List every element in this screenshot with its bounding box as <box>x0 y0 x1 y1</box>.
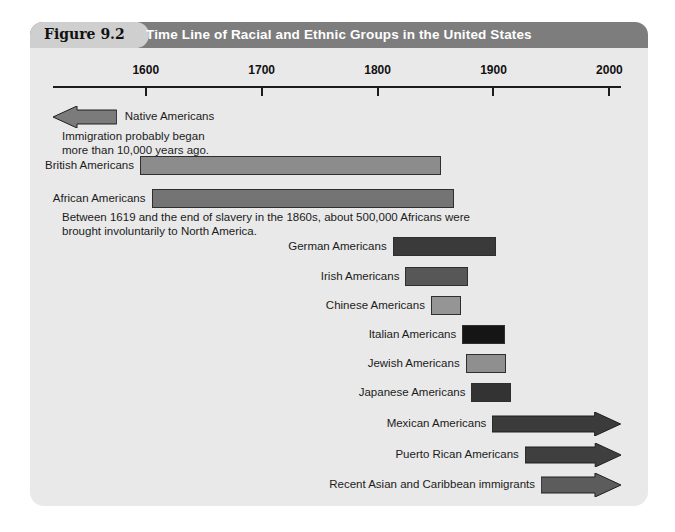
axis-label-1800: 1800 <box>364 63 391 77</box>
timeline-bar <box>466 354 507 373</box>
axis-tick-1900 <box>492 86 494 96</box>
timeline-bar <box>431 296 461 315</box>
timeline-arrow-right <box>541 473 621 497</box>
axis-tick-1800 <box>377 86 379 96</box>
timeline-row-note: Immigration probably began more than 10,… <box>62 130 209 157</box>
timeline-arrow-right <box>492 412 621 436</box>
timeline-row-label: Japanese Americans <box>359 386 466 398</box>
axis-label-1700: 1700 <box>248 63 275 77</box>
timeline-row-label: Chinese Americans <box>326 299 425 311</box>
timeline-row-label: British Americans <box>45 159 134 171</box>
axis-label-1600: 1600 <box>132 63 159 77</box>
timeline-row-label: Jewish Americans <box>368 357 460 369</box>
timeline-row-label: Italian Americans <box>369 328 457 340</box>
timeline-bar <box>471 383 510 402</box>
axis-label-2000: 2000 <box>596 63 623 77</box>
timeline-bar <box>462 325 505 344</box>
figure-number-label: Figure 9.2 <box>44 26 125 42</box>
axis-tick-1700 <box>261 86 263 96</box>
axis-tick-1600 <box>145 86 147 96</box>
figure-title: Time Line of Racial and Ethnic Groups in… <box>146 27 532 42</box>
timeline-bar <box>393 237 496 256</box>
figure-header: Figure 9.2 Time Line of Racial and Ethni… <box>30 22 648 48</box>
figure-panel: Figure 9.2 Time Line of Racial and Ethni… <box>30 22 648 506</box>
axis-label-1900: 1900 <box>480 63 507 77</box>
timeline-bar <box>405 267 468 286</box>
timeline-row-label: German Americans <box>288 240 386 252</box>
timeline-row-label: Recent Asian and Caribbean immigrants <box>329 478 535 490</box>
timeline-row-label: Native Americans <box>125 110 214 122</box>
axis-tick-2000 <box>608 86 610 96</box>
timeline-bar <box>152 189 455 208</box>
timeline-row-label: Mexican Americans <box>387 417 487 429</box>
timeline-row-label: African Americans <box>53 192 146 204</box>
timeline-bar <box>140 156 441 175</box>
timeline-arrow-right <box>525 443 621 467</box>
timeline-row-label: Irish Americans <box>321 270 400 282</box>
timeline-axis-line <box>53 86 621 88</box>
timeline-row-label: Puerto Rican Americans <box>395 448 518 460</box>
timeline-arrow-left <box>53 106 117 128</box>
timeline-row-note: Between 1619 and the end of slavery in t… <box>62 211 470 238</box>
